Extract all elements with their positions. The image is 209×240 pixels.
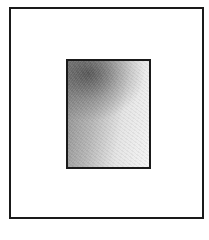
inner-gradient-rect <box>66 59 151 169</box>
grain-texture <box>68 61 149 167</box>
